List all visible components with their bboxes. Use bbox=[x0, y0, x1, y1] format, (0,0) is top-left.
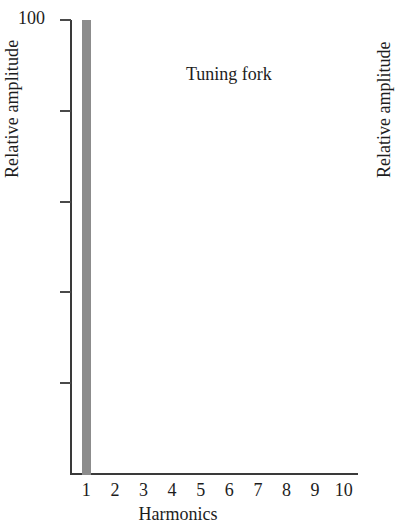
plot-area bbox=[72, 20, 358, 475]
y-axis-tick bbox=[60, 291, 71, 293]
y-axis-tick bbox=[60, 382, 71, 384]
x-axis-title: Harmonics bbox=[0, 504, 411, 525]
x-axis-tick-label: 1 bbox=[82, 480, 91, 501]
tuning-fork-harmonics-chart: 100 Relative amplitude Tuning fork 12345… bbox=[0, 0, 411, 530]
x-axis-title-text: Harmonics bbox=[139, 504, 218, 525]
x-axis-tick-label: 9 bbox=[311, 480, 320, 501]
neighbor-panel-y-axis-title: Relative amplitude bbox=[374, 0, 395, 178]
x-axis-tick-label: 10 bbox=[335, 480, 353, 501]
x-axis-tick-label: 6 bbox=[225, 480, 234, 501]
x-axis-tick-label: 4 bbox=[168, 480, 177, 501]
y-axis-tick bbox=[60, 19, 71, 21]
y-axis-tick bbox=[60, 110, 71, 112]
x-axis-tick-label: 3 bbox=[139, 480, 148, 501]
x-axis-tick-labels: 12345678910 bbox=[72, 480, 358, 504]
x-axis-tick-label: 2 bbox=[110, 480, 119, 501]
bar bbox=[82, 20, 91, 475]
y-axis-tick bbox=[60, 201, 71, 203]
x-axis-tick-label: 5 bbox=[196, 480, 205, 501]
x-axis-tick-label: 7 bbox=[253, 480, 262, 501]
y-axis-title: Relative amplitude bbox=[2, 0, 23, 178]
x-axis-tick-label: 8 bbox=[282, 480, 291, 501]
chart-title: Tuning fork bbox=[186, 64, 272, 85]
